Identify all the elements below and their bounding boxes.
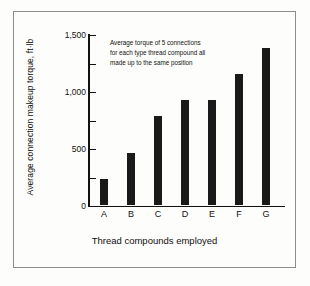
y-tick-major-0 [89, 206, 96, 207]
y-tick-label-1500: 1,500 [52, 31, 86, 40]
x-tick-label-C: C [148, 209, 168, 219]
x-tick-label-F: F [229, 209, 249, 219]
y-tick-major-1500 [89, 35, 96, 36]
y-tick-label-0: 0 [52, 202, 86, 211]
figure-container: Average connection makeup torque, ft·lb … [0, 0, 310, 286]
x-tick-label-D: D [175, 209, 195, 219]
bar-C [154, 116, 162, 206]
x-tick-label-G: G [256, 209, 276, 219]
y-tick-major-1000 [89, 92, 96, 93]
x-tick-label-B: B [121, 209, 141, 219]
bar-F [235, 74, 243, 206]
y-tick-minor-1250 [89, 64, 96, 65]
y-tick-major-500 [89, 149, 96, 150]
x-tick-label-E: E [202, 209, 222, 219]
x-axis-line [88, 206, 285, 208]
bar-G [262, 48, 270, 206]
y-tick-minor-750 [89, 121, 96, 122]
x-tick-label-A: A [94, 209, 114, 219]
x-axis-title: Thread compounds employed [13, 235, 296, 246]
bar-B [127, 153, 135, 205]
chart-annotation: Average torque of 5 connections for each… [110, 38, 205, 67]
bar-D [181, 100, 189, 205]
y-tick-label-500: 500 [52, 145, 86, 154]
bar-A [100, 179, 108, 205]
y-tick-label-1000: 1,000 [52, 88, 86, 97]
y-axis-title: Average connection makeup torque, ft·lb [25, 27, 35, 207]
bar-E [208, 100, 216, 205]
y-tick-minor-250 [89, 178, 96, 179]
chart-plot-area: Average connection makeup torque, ft·lb … [0, 0, 310, 286]
